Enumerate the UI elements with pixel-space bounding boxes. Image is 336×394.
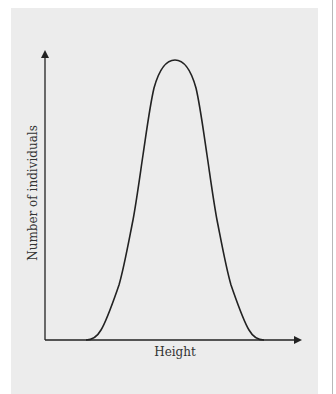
bell-curve-chart: [0, 0, 336, 394]
distribution-curve: [86, 60, 264, 340]
y-axis-label: Number of individuals: [26, 123, 40, 263]
x-axis-label: Height: [140, 345, 210, 359]
